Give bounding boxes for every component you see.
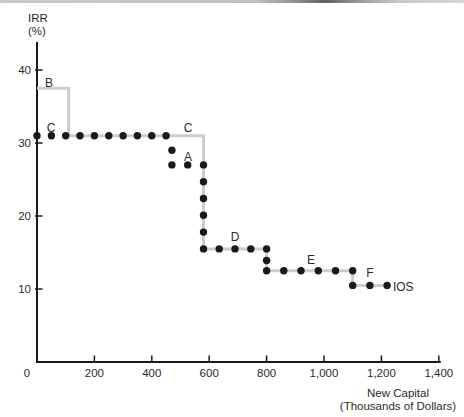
ios-dot (200, 161, 207, 168)
ios-dot (200, 178, 207, 185)
project-labels: BCCADEFIOS (45, 76, 413, 294)
ios-step-line-gray (37, 88, 387, 285)
ios-dot (315, 267, 322, 274)
x-tick-label: 1,400 (424, 367, 453, 379)
ios-dot (200, 212, 207, 219)
axes: 02004006008001,0001,2001,40010203040 (18, 42, 453, 379)
x-tick-label: 1,000 (310, 367, 339, 379)
ios-dotted-line (33, 132, 391, 289)
ios-dot (280, 267, 287, 274)
x-tick-label: 1,200 (367, 367, 396, 379)
ios-dot (349, 267, 356, 274)
ios-dot (119, 132, 126, 139)
ios-dot (148, 132, 155, 139)
y-tick-label: 30 (18, 137, 31, 149)
label-D: D (231, 230, 240, 244)
ios-dot (263, 267, 270, 274)
x-tick-label: 800 (257, 367, 276, 379)
ios-dot (216, 245, 223, 252)
ios-dot (383, 282, 390, 289)
ios-dot (62, 132, 69, 139)
ios-dot (366, 282, 373, 289)
label-B: B (45, 76, 53, 90)
y-tick-label: 10 (18, 283, 31, 295)
y-axis-title-line1: IRR (28, 12, 48, 24)
label-E: E (307, 253, 315, 267)
ios-dot (332, 267, 339, 274)
x-tick-label: 600 (200, 367, 219, 379)
ios-dot (168, 147, 175, 154)
ios-figure: IRR (%) 02004006008001,0001,2001,4001020… (0, 0, 464, 417)
ios-dot (76, 132, 83, 139)
ios-dot (349, 282, 356, 289)
ios-chart: IRR (%) 02004006008001,0001,2001,4001020… (0, 0, 464, 417)
label-F: F (366, 266, 373, 280)
label-IOS: IOS (393, 280, 414, 294)
ios-line-including-B (37, 88, 387, 285)
x-axis-title-line1: New Capital (367, 387, 429, 399)
x-tick-label: 200 (85, 367, 104, 379)
ios-dot (134, 132, 141, 139)
x-tick-label: 0 (24, 367, 30, 379)
ios-dot (200, 195, 207, 202)
y-axis-title-line2: (%) (28, 25, 46, 37)
ios-dot (91, 132, 98, 139)
ios-dot (263, 257, 270, 264)
ios-dot (168, 161, 175, 168)
y-tick-label: 20 (18, 210, 31, 222)
ios-dot (263, 245, 270, 252)
y-tick-label: 40 (18, 64, 31, 76)
label-C: C (184, 121, 193, 135)
ios-dot (162, 132, 169, 139)
label-C: C (47, 121, 56, 135)
x-tick-label: 400 (142, 367, 161, 379)
ios-dot (200, 228, 207, 235)
ios-dot (297, 267, 304, 274)
ios-dot (231, 245, 238, 252)
ios-dot (105, 132, 112, 139)
x-axis-title-line2: (Thousands of Dollars) (340, 400, 456, 412)
ios-dot (33, 132, 40, 139)
label-A: A (184, 150, 192, 164)
ios-dot (200, 245, 207, 252)
ios-dot (247, 245, 254, 252)
